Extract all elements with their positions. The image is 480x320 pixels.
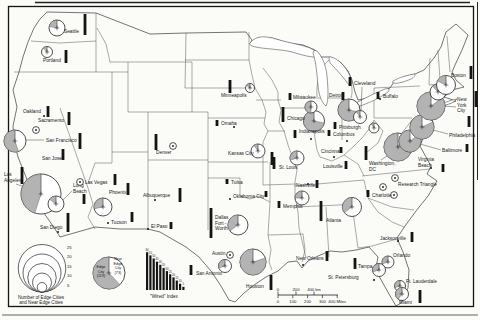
las-vegas-small-marker-dot-0 [79, 181, 81, 183]
san-jose-label-0: San Jose [42, 156, 62, 161]
new-york-city-leader-line [444, 106, 456, 107]
oklahoma-city-label-0: Oklahoma City [233, 194, 265, 199]
washington-dc-wired-bar [365, 146, 368, 160]
atlanta-wired-bar [320, 201, 323, 221]
memphis-label-0: Memphis [283, 204, 303, 209]
scale-miles-label-0: 0 [277, 299, 280, 304]
city-minneapolis: Minneapolis [221, 80, 255, 98]
los-angeles-label-0: Los [4, 172, 12, 177]
edge-cities-map-figure: SeattlePortlandOaklandSacramentoSan Fran… [0, 0, 480, 320]
city-memphis: Memphis [278, 191, 309, 209]
wired-index-caption: "Wired" Index [150, 294, 178, 299]
scale-km-label-0: 0 [277, 287, 280, 292]
size-legend-circle-5 [37, 283, 47, 293]
city-phoenix: Phoenix [94, 183, 129, 216]
scale-bar: 0200400 km0100200300400 Miles [277, 287, 346, 304]
city-denver: Denver [155, 134, 177, 155]
portland-label-0: Portland [43, 58, 61, 63]
long-beach-leader-line [63, 191, 72, 200]
el-paso-point [147, 228, 149, 230]
austin-label-0: Austin [212, 251, 226, 256]
cleveland-wired-bar [349, 77, 352, 86]
baltimore-leader-line [420, 144, 441, 150]
city-atlanta: Atlanta [320, 198, 362, 224]
city-st-petersburg: St. Petersburg [328, 275, 375, 281]
houston-wired-bar [270, 275, 273, 290]
size-legend-value-15: 15 [67, 264, 72, 269]
lake-superior [250, 37, 320, 57]
st-louis-wired-bar [273, 157, 276, 169]
dallas-fort-worth-wired-bar [210, 208, 213, 238]
milwaukee-label-0: Milwaukee [293, 95, 316, 100]
el-paso-wired-bar [170, 222, 173, 229]
city-nashville: Nashville [296, 180, 318, 188]
pie-legend-near-label-1: Near [114, 257, 123, 261]
st-petersburg-label-0: St. Petersburg [328, 275, 359, 280]
city-las-vegas: Las Vegas [77, 174, 117, 185]
city-tulsa: Tulsa [226, 179, 243, 185]
city-oakland: Oakland [23, 106, 49, 117]
city-tucson: Tucson [107, 212, 133, 225]
columbus-point [346, 140, 348, 142]
phoenix-label-0: Phoenix [109, 190, 127, 195]
sacramento-wired-bar [68, 112, 71, 125]
city-omaha: Omaha [216, 120, 237, 128]
city-charlotte: Charlotte [367, 190, 398, 198]
tulsa-label-0: Tulsa [231, 180, 243, 185]
wired-legend-bar-40 [159, 265, 161, 290]
long-beach-wired-bar [83, 194, 86, 204]
city-oklahoma-city: Oklahoma City [229, 191, 267, 200]
pie-legend-edge-label-3: (119) [97, 274, 106, 278]
indianapolis-label-0: Indianapolis [299, 129, 325, 134]
pittsburgh-label-0: Pittsburgh [339, 125, 361, 130]
phoenix-wired-bar [127, 183, 130, 195]
san-antonio-wired-bar [190, 265, 193, 275]
city-houston: Houston [240, 249, 272, 290]
baltimore-wired-bar [466, 144, 469, 152]
washington-dc-label-0: Washington, [369, 161, 396, 166]
kansas-city-label-0: Kansas City [228, 151, 254, 156]
scale-miles-label-3: 300 [319, 299, 327, 304]
louisville-wired-bar [345, 161, 348, 169]
seattle-wired-bar [84, 14, 87, 35]
buffalo-label-0: Buffalo [383, 94, 398, 99]
city-cincinnati: Cincinnati [321, 147, 342, 158]
houston-label-0: Houston [246, 284, 264, 289]
st-petersburg-point [373, 279, 375, 281]
washington-dc-label-1: DC [369, 167, 376, 172]
us-edge-cities-map: SeattlePortlandOaklandSacramentoSan Fran… [0, 0, 480, 320]
pie-legend-edge-label-1: Edge [97, 265, 106, 269]
wired-legend-bar-30 [166, 271, 168, 290]
city-el-paso: El Paso [147, 222, 172, 230]
dallas-fort-worth-label-2: Worth [215, 226, 228, 231]
scale-miles-label-4: 400 Miles [328, 299, 346, 304]
tucson-point [107, 222, 109, 224]
memphis-count-pie-wedge [295, 191, 302, 198]
city-indianapolis: Indianapolis [294, 129, 326, 140]
columbus-wired-bar [328, 130, 331, 136]
philadelphia-leader-line [433, 130, 448, 134]
wired-legend-bar-10 [179, 284, 181, 290]
wired-legend-value-5: 5 [183, 282, 185, 286]
city-dallas-fort-worth: DallasFort -Worth [210, 208, 248, 238]
orlando-label-0: Orlando [393, 253, 410, 258]
city-louisville: Louisville [323, 161, 347, 169]
wired-legend-bar-35 [163, 268, 165, 290]
seattle-count-pie-wedge [49, 20, 57, 28]
city-philadelphia: Philadelphia [410, 115, 475, 139]
omaha-point [233, 126, 235, 128]
pie-legend-near-label-3: City [115, 266, 122, 270]
city-st-louis: St. Louis [273, 151, 304, 170]
cincinnati-point [333, 156, 335, 158]
size-legend-caption-line2: and Near Edge Cities [19, 300, 63, 305]
philadelphia-label-0: Philadelphia [449, 133, 475, 138]
wired-index-legend: 60555045403530252015105 [146, 248, 185, 290]
memphis-wired-bar [278, 201, 281, 208]
albuquerque-label-0: Albuquerque [143, 193, 171, 198]
wired-legend-bar-55 [149, 255, 151, 290]
lake-ontario [392, 74, 415, 83]
oakland-label-0: Oakland [23, 109, 41, 114]
indianapolis-point [310, 138, 312, 140]
charlotte-small-marker-dot-0 [393, 194, 395, 196]
san-diego-label-0: San Diego [40, 225, 63, 230]
